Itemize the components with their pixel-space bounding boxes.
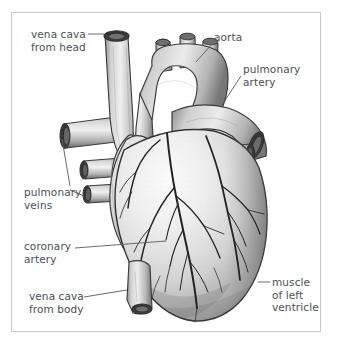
- heart-anatomy-figure: vena cava from head aorta pulmonary arte…: [0, 0, 337, 346]
- label-aorta: aorta: [214, 31, 242, 44]
- label-pulmonary-artery: pulmonary artery: [243, 63, 300, 88]
- label-vena-cava-from-body: vena cava from body: [29, 290, 84, 315]
- label-vena-cava-from-head: vena cava from head: [31, 28, 86, 53]
- label-muscle-of-left-ventricle: muscle of left ventricle: [272, 276, 319, 314]
- label-coronary-artery: coronary artery: [24, 240, 71, 265]
- inferior-vena-cava: [126, 258, 154, 314]
- leader-vena-cava-body: [84, 290, 127, 297]
- label-pulmonary-veins: pulmonary veins: [24, 186, 81, 211]
